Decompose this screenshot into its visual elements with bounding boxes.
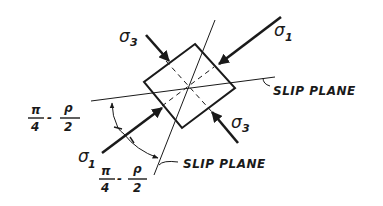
svg-text:3: 3: [130, 36, 138, 49]
diagram-canvas: SLIP PLANE SLIP PLANE σ 3 σ 1 σ 3 σ 1 π …: [0, 0, 383, 206]
sigma1-label-lower: σ 1: [78, 146, 96, 171]
sigma1-arrow-upper-right: [219, 17, 281, 64]
svg-text:π: π: [101, 164, 111, 178]
sigma1-label-upper: σ 1: [274, 20, 293, 44]
svg-text:-: -: [47, 111, 52, 125]
slip-plane-line-shallow: [91, 77, 275, 101]
svg-text:2: 2: [64, 120, 72, 134]
svg-text:1: 1: [285, 31, 293, 44]
svg-text:4: 4: [30, 120, 39, 134]
svg-text:3: 3: [242, 122, 250, 135]
angle-label-left: π 4 - ρ 2: [28, 101, 80, 134]
sigma1-arrow-lower-left: [102, 108, 162, 153]
slip-plane-leader-right: [263, 78, 270, 86]
slip-plane-leader-bottom: [159, 161, 178, 165]
sigma3-arrow-upper-left: [146, 35, 169, 61]
dashed-axis-sigma1: [162, 67, 214, 106]
angle-label-bottom: π 4 - ρ 2: [99, 162, 147, 195]
svg-text:-: -: [117, 172, 122, 186]
svg-text:2: 2: [133, 181, 141, 195]
svg-text:ρ: ρ: [64, 101, 73, 115]
angle-arc-lower: [124, 134, 158, 158]
sigma3-label-lower: σ 3: [231, 112, 250, 135]
svg-text:ρ: ρ: [133, 162, 142, 176]
arc-tick-mark: [114, 127, 122, 129]
svg-text:1: 1: [88, 158, 96, 171]
svg-text:π: π: [31, 103, 41, 117]
svg-text:4: 4: [100, 181, 109, 195]
slip-plane-label-right: SLIP PLANE: [273, 84, 356, 98]
slip-plane-label-bottom: SLIP PLANE: [183, 157, 266, 171]
slip-plane-line-steep: [154, 20, 215, 175]
sigma3-label-upper: σ 3: [119, 26, 138, 49]
angle-arc: [112, 103, 118, 128]
